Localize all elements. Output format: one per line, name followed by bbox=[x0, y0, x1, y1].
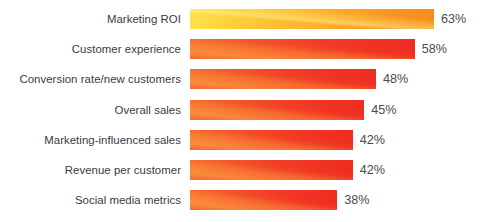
bar bbox=[190, 130, 353, 150]
value-label: 48% bbox=[376, 69, 408, 89]
bar-highlight-wedge bbox=[190, 190, 337, 210]
bar-area: 48% bbox=[190, 69, 500, 89]
bar-area: 63% bbox=[190, 9, 500, 29]
chart-row: Conversion rate/new customers48% bbox=[0, 69, 500, 89]
chart-row: Marketing-influenced sales42% bbox=[0, 130, 500, 150]
bar-highlight-wedge bbox=[190, 160, 353, 180]
value-label: 63% bbox=[434, 9, 466, 29]
bar bbox=[190, 160, 353, 180]
bar bbox=[190, 39, 415, 59]
chart-row: Marketing ROI63% bbox=[0, 9, 500, 29]
category-label: Marketing-influenced sales bbox=[0, 130, 190, 150]
value-label: 42% bbox=[353, 160, 385, 180]
bar-highlight-wedge bbox=[190, 100, 364, 120]
category-label: Marketing ROI bbox=[0, 9, 190, 29]
category-label: Social media metrics bbox=[0, 190, 190, 210]
category-label: Revenue per customer bbox=[0, 160, 190, 180]
value-label: 45% bbox=[364, 100, 396, 120]
value-label: 58% bbox=[415, 39, 447, 59]
bar bbox=[190, 69, 376, 89]
bar bbox=[190, 9, 434, 29]
bar bbox=[190, 100, 364, 120]
bar-area: 42% bbox=[190, 160, 500, 180]
chart-row: Customer experience58% bbox=[0, 39, 500, 59]
bar-highlight-wedge bbox=[190, 69, 376, 89]
chart-row: Social media metrics38% bbox=[0, 190, 500, 210]
value-label: 42% bbox=[353, 130, 385, 150]
chart-row: Revenue per customer42% bbox=[0, 160, 500, 180]
bar-area: 58% bbox=[190, 39, 500, 59]
bar bbox=[190, 190, 337, 210]
category-label: Conversion rate/new customers bbox=[0, 69, 190, 89]
category-label: Overall sales bbox=[0, 100, 190, 120]
chart-rows: Marketing ROI63%Customer experience58%Co… bbox=[0, 9, 500, 220]
bar-area: 45% bbox=[190, 100, 500, 120]
horizontal-bar-chart: Marketing ROI63%Customer experience58%Co… bbox=[0, 0, 500, 222]
chart-row: Overall sales45% bbox=[0, 100, 500, 120]
category-label: Customer experience bbox=[0, 39, 190, 59]
bar-highlight-wedge bbox=[190, 39, 415, 59]
bar-highlight-wedge bbox=[190, 130, 353, 150]
value-label: 38% bbox=[337, 190, 369, 210]
bar-area: 42% bbox=[190, 130, 500, 150]
bar-highlight-wedge bbox=[190, 9, 434, 29]
bar-area: 38% bbox=[190, 190, 500, 210]
